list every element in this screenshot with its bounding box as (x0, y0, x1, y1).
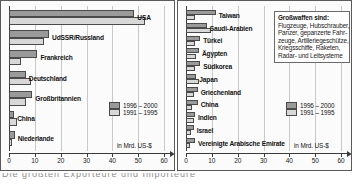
category-label: USA (137, 14, 150, 21)
category-label: Japan (199, 76, 217, 83)
infobox-line: Kriegsschiffe, Raketen, (278, 44, 346, 52)
infobox-title: Großwaffen sind: (278, 14, 346, 22)
category-label: Großbritannien (35, 95, 81, 102)
exporters-chart-panel: 0102030405060USAUdSSR/RusslandFrankreich… (0, 0, 175, 171)
bar-light (186, 130, 191, 135)
chart-legend: 1996 – 20001991 – 1995 (286, 102, 334, 116)
legend-swatch-dark (109, 102, 120, 109)
grosswaffen-definition-box: Großwaffen sind: Flugzeuge, Hubschrauber… (274, 11, 350, 63)
bar-light (186, 118, 194, 123)
legend-label: 1991 – 1995 (300, 109, 334, 116)
bar-dark (9, 71, 26, 78)
infobox-line: Flugzeuge, Hubschrauber, (278, 22, 346, 30)
legend-label: 1996 – 2000 (300, 102, 334, 109)
category-label: Südkorea (203, 63, 232, 70)
bar-light (9, 118, 17, 125)
x-axis-tick-label: 20 (234, 157, 241, 164)
figure-caption: Die größten Exporteure und Importeure (2, 173, 196, 179)
figure-root: 0102030405060USAUdSSR/RusslandFrankreich… (0, 0, 354, 184)
bar-light (186, 105, 192, 110)
bar-light (186, 54, 196, 59)
category-label: Griechenland (201, 89, 241, 96)
bar-light (186, 28, 211, 33)
figure-caption-strip: Die größten Exporteure und Importeure (0, 173, 354, 184)
category-label: Deutschland (29, 75, 67, 82)
bar-dark (9, 10, 134, 17)
bar-dark (9, 91, 32, 98)
bar-light (9, 78, 31, 85)
x-axis-tick-label: 0 (184, 157, 188, 164)
x-axis-tick-label: 30 (83, 157, 90, 164)
infobox-line: zeuge, Artilleriegeschütze, (278, 37, 346, 45)
grid-line (87, 6, 88, 151)
category-label: Indien (198, 114, 217, 121)
category-label: Ägypten (202, 50, 227, 57)
x-axis-tick-label: 10 (208, 157, 215, 164)
bar-dark (9, 30, 49, 37)
bar-light (9, 139, 12, 146)
legend-label-group: 1996 – 20001991 – 1995 (300, 102, 334, 116)
legend-label: 1996 – 2000 (123, 102, 157, 109)
x-axis-tick-label: 50 (312, 157, 319, 164)
bar-light (186, 66, 195, 71)
x-axis-tick-label: 40 (286, 157, 293, 164)
x-axis-tick-label: 60 (160, 157, 167, 164)
legend-swatch-group (109, 102, 120, 116)
x-axis-tick-label: 50 (135, 157, 142, 164)
legend-swatch-light (109, 109, 120, 116)
bar-light (186, 15, 195, 20)
category-label: Frankreich (40, 54, 72, 61)
grid-line (264, 6, 265, 151)
exporters-plot-area: 0102030405060USAUdSSR/RusslandFrankreich… (1, 1, 174, 170)
category-label: UdSSR/Russland (52, 34, 104, 41)
category-label: Türkei (203, 37, 222, 44)
category-label: Israel (197, 127, 213, 134)
bar-dark (9, 50, 37, 57)
x-axis-tick-label: 20 (57, 157, 64, 164)
x-axis-tick-label: 10 (31, 157, 38, 164)
axis-unit-label: in Mrd. US-$ (294, 142, 329, 149)
x-axis-tick-label: 30 (260, 157, 267, 164)
bar-dark (9, 131, 15, 138)
bar-dark (9, 111, 14, 118)
category-label: Saudi-Arabien (210, 25, 253, 32)
legend-swatch-group (286, 102, 297, 116)
category-label: Niederlande (18, 135, 54, 142)
x-axis-line (186, 153, 347, 154)
grid-line (138, 6, 139, 151)
chart-legend: 1996 – 20001991 – 1995 (109, 102, 157, 116)
infobox-line: Panzer, gepanzerte Fahr- (278, 29, 346, 37)
bar-light (186, 79, 199, 84)
legend-label: 1991 – 1995 (123, 109, 157, 116)
axis-unit-label: in Mrd. US-$ (117, 142, 152, 149)
x-axis-arrow-icon (347, 151, 352, 157)
category-label: Taiwan (219, 12, 240, 19)
category-label: China (201, 101, 219, 108)
x-axis-tick-label: 60 (337, 157, 344, 164)
category-label: Vereinigte Arabische Emirate (198, 140, 285, 147)
x-axis-tick-label: 0 (7, 157, 11, 164)
category-label: China (17, 115, 35, 122)
bar-light (186, 92, 194, 97)
importers-chart-panel: 0102030405060TaiwanSaudi-ArabienTürkeiÄg… (177, 0, 352, 171)
legend-swatch-dark (286, 102, 297, 109)
bar-light (9, 38, 44, 45)
bar-light (9, 98, 26, 105)
x-axis-tick-label: 40 (109, 157, 116, 164)
bar-light (9, 17, 145, 24)
bar-light (9, 58, 21, 65)
legend-swatch-light (286, 109, 297, 116)
infobox-line: Radar- und Leitsysteme (278, 52, 346, 60)
grid-line (164, 6, 165, 151)
grid-line (112, 6, 113, 151)
x-axis-line (9, 153, 170, 154)
bar-light (186, 143, 190, 148)
bar-light (186, 41, 195, 46)
legend-label-group: 1996 – 20001991 – 1995 (123, 102, 157, 116)
x-axis-arrow-icon (170, 151, 175, 157)
infobox-body: Flugzeuge, Hubschrauber,Panzer, gepanzer… (278, 22, 346, 60)
